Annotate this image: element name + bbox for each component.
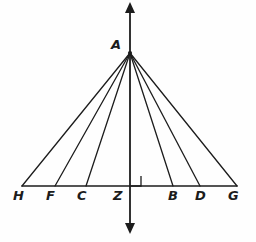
ray-A-D — [130, 53, 200, 186]
ray-A-B — [130, 53, 173, 186]
point-label-F: F — [46, 189, 55, 202]
point-label-H: H — [13, 189, 24, 202]
ray-A-H — [22, 53, 130, 186]
axis-arrow-up-icon — [125, 2, 135, 13]
point-label-B: B — [168, 189, 178, 202]
point-label-A: A — [111, 38, 121, 51]
geometry-figure: A HFCZBDG — [0, 0, 256, 242]
apex-vertex-dot — [128, 51, 132, 55]
point-label-C: C — [77, 189, 87, 202]
ray-A-G — [130, 53, 237, 186]
point-label-Z: Z — [113, 189, 122, 202]
point-label-G: G — [228, 189, 239, 202]
axis-arrow-down-icon — [125, 223, 135, 234]
geometry-canvas — [0, 0, 256, 242]
point-label-D: D — [195, 189, 206, 202]
right-angle-marker-icon — [131, 176, 141, 186]
